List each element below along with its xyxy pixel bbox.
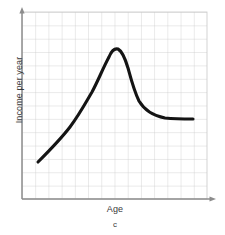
y-axis-label: Income per year (14, 15, 24, 165)
x-axis-label: Age (22, 204, 208, 214)
chart-canvas (0, 0, 225, 235)
figure-container: Income per year Age c (0, 0, 225, 235)
x-axis-arrow-icon (210, 196, 217, 201)
y-axis-arrow-icon (19, 7, 24, 14)
chart-gridlines (22, 12, 207, 199)
figure-caption: c (22, 220, 208, 229)
